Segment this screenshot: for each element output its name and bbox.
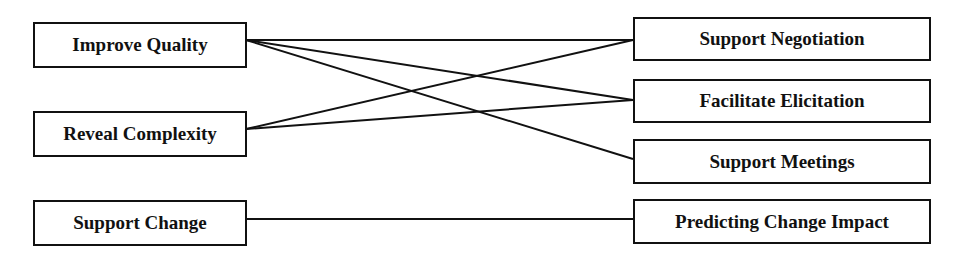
edge-improve-quality-facilitate-elicitation <box>246 40 633 100</box>
node-label: Improve Quality <box>72 34 207 56</box>
node-facilitate-elicitation: Facilitate Elicitation <box>633 79 931 123</box>
node-predicting-change-impact: Predicting Change Impact <box>633 199 931 244</box>
node-label: Support Change <box>73 212 207 234</box>
node-support-negotiation: Support Negotiation <box>633 17 931 61</box>
node-support-meetings: Support Meetings <box>633 139 931 184</box>
node-support-change: Support Change <box>33 200 247 246</box>
node-improve-quality: Improve Quality <box>33 22 247 68</box>
node-label: Predicting Change Impact <box>675 211 889 233</box>
node-label: Support Meetings <box>709 151 854 173</box>
node-label: Support Negotiation <box>699 28 864 50</box>
node-label: Facilitate Elicitation <box>699 90 864 112</box>
edge-reveal-complexity-facilitate-elicitation <box>246 100 633 129</box>
edge-reveal-complexity-support-negotiation <box>246 40 633 129</box>
edge-improve-quality-support-meetings <box>246 40 633 159</box>
node-reveal-complexity: Reveal Complexity <box>33 111 247 157</box>
mapping-diagram: Improve Quality Reveal Complexity Suppor… <box>0 0 965 259</box>
node-label: Reveal Complexity <box>63 123 217 145</box>
